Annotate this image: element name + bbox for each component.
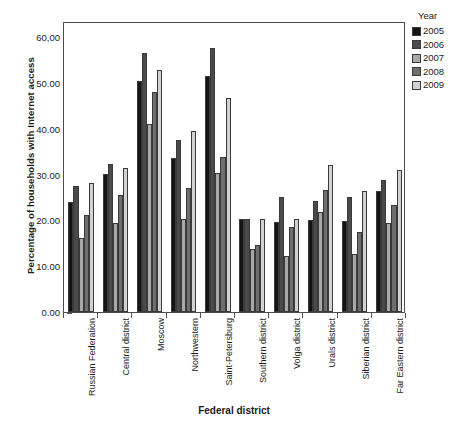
legend-item[interactable]: 2009: [412, 79, 467, 91]
bar-group: [64, 23, 98, 312]
bar: [191, 131, 196, 312]
legend-rows: 20052006200720082009: [412, 25, 467, 91]
legend-swatch-icon: [412, 27, 421, 36]
bar-group: [201, 23, 235, 312]
legend: Year 20052006200720082009: [412, 10, 467, 93]
legend-swatch-icon: [412, 67, 421, 76]
y-tick-label: 50.00: [14, 79, 60, 89]
y-axis-ticks: 60,0050.0040.0030.0020.0010.000.00: [10, 0, 60, 438]
x-category-label: Central district: [118, 318, 128, 376]
x-axis-category-labels: Russian FederationCentral districtMoscow…: [63, 318, 405, 406]
x-category-label: Volga district: [289, 318, 299, 369]
bar: [362, 191, 367, 312]
x-category-label: Southern district: [255, 318, 265, 383]
bar-group: [269, 23, 303, 312]
legend-item[interactable]: 2008: [412, 66, 467, 78]
bar: [123, 168, 128, 312]
x-category-label: Urals district: [324, 318, 334, 368]
y-tick-label: 20.00: [14, 216, 60, 226]
x-category-label: Saint-Petersburg: [221, 318, 231, 386]
legend-label: 2008: [423, 67, 444, 77]
bar-group: [98, 23, 132, 312]
bar-group: [167, 23, 201, 312]
x-category-label: Russian Federation: [84, 318, 94, 396]
legend-swatch-icon: [412, 81, 421, 90]
bar: [260, 219, 265, 312]
legend-item[interactable]: 2005: [412, 25, 467, 37]
legend-swatch-icon: [412, 40, 421, 49]
bar: [157, 70, 162, 312]
y-tick-label: 40.00: [14, 125, 60, 135]
y-tick-label: 10.00: [14, 262, 60, 272]
legend-label: 2006: [423, 40, 444, 50]
bar: [397, 170, 402, 312]
legend-item[interactable]: 2006: [412, 39, 467, 51]
plot-area: [63, 22, 405, 313]
bar-group: [303, 23, 337, 312]
x-category-label: Moscow: [153, 318, 163, 351]
bar-group: [338, 23, 372, 312]
legend-label: 2009: [423, 80, 444, 90]
x-category-label: Far Eastern district: [392, 318, 402, 394]
y-tick-label: 0.00: [14, 308, 60, 318]
bar-group: [132, 23, 166, 312]
y-tick-label: 60,00: [14, 33, 60, 43]
bars-layer: [64, 23, 404, 312]
y-tick-label: 30.00: [14, 171, 60, 181]
bar-group: [372, 23, 405, 312]
bar-chart: Percentage of households with Internet a…: [0, 0, 467, 438]
legend-item[interactable]: 2007: [412, 52, 467, 64]
x-category-label: Northwestern: [187, 318, 197, 372]
legend-swatch-icon: [412, 54, 421, 63]
bar: [328, 165, 333, 312]
legend-label: 2007: [423, 53, 444, 63]
bar: [226, 98, 231, 312]
x-axis-title: Federal district: [63, 405, 405, 416]
x-category-label: Siberian district: [358, 318, 368, 380]
bar: [294, 219, 299, 312]
bar-group: [235, 23, 269, 312]
legend-label: 2005: [423, 26, 444, 36]
x-tick-mark: [405, 313, 406, 318]
legend-title: Year: [418, 10, 467, 21]
bar: [89, 183, 94, 312]
